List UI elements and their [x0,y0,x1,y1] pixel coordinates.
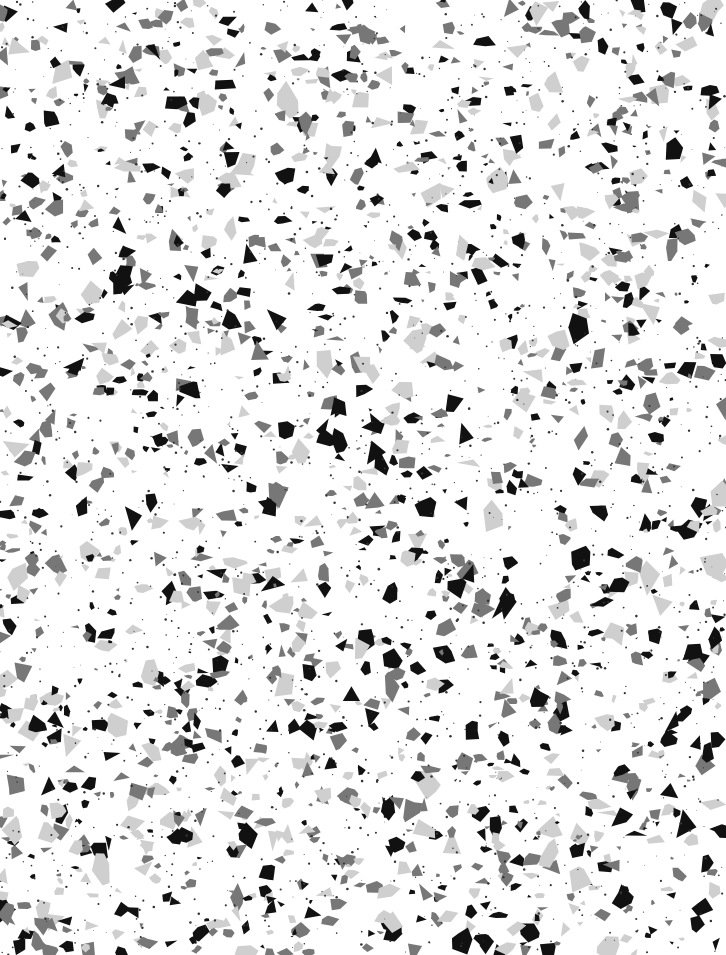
terrazzo-texture [0,0,726,955]
